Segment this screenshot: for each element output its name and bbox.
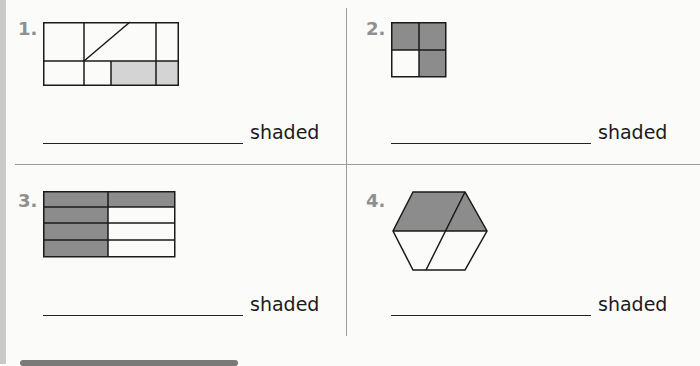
problem-3-figure [43,191,176,258]
problem-number: 3. [18,190,37,211]
problem-number: 1. [18,18,37,39]
answer-line[interactable] [43,315,243,316]
answer-line[interactable] [391,143,591,144]
answer-line[interactable] [391,315,591,316]
answer-line[interactable] [43,143,243,144]
bottom-bar [20,360,238,366]
problem-number: 4. [366,190,385,211]
shaded-label: shaded [250,121,319,143]
shaded-label: shaded [250,293,319,315]
problem-2-figure [391,22,447,78]
shaded-label: shaded [598,293,667,315]
page-edge-strip [0,0,6,364]
horizontal-divider [15,164,700,165]
problem-1-figure [43,22,179,86]
problem-4-figure [392,191,490,272]
problem-number: 2. [366,18,385,39]
vertical-divider [346,8,347,336]
shaded-label: shaded [598,121,667,143]
